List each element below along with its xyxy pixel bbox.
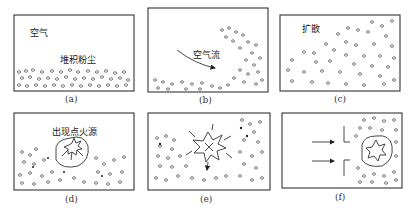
settled-dust-particles: [17, 69, 129, 88]
panel-a: 空气 堆积粉尘 (a): [14, 15, 134, 104]
ignition-rays: [62, 150, 83, 160]
label-settled-dust: 堆积粉尘: [60, 54, 96, 65]
panel-b: 空气流 (b): [148, 8, 268, 105]
panel-c: 扩散 (c): [280, 15, 400, 104]
label-airflow: 空气流: [193, 49, 220, 60]
panel-f: (f): [282, 113, 402, 202]
label-diffusion: 扩散: [302, 23, 320, 34]
panel-d-frame: [14, 113, 134, 190]
caption-b: (b): [199, 95, 212, 105]
dust-explosion-diagram: 空气 堆积粉尘 (a): [0, 0, 416, 218]
panel-e: (e): [148, 113, 270, 204]
panel-d: 出现点火源 (d): [14, 113, 134, 204]
secondary-flame-envelope: [362, 136, 392, 167]
suspended-dust-particles-e: [155, 119, 264, 182]
explosion-core: [205, 143, 213, 151]
label-air: 空气: [30, 27, 48, 38]
wall-opening-top: [344, 126, 350, 142]
wall-opening-bottom: [344, 160, 350, 176]
caption-c: (c): [334, 94, 346, 104]
label-ignition-source: 出现点火源: [52, 126, 97, 137]
caption-e: (e): [200, 194, 212, 204]
caption-f: (f): [335, 192, 345, 202]
panel-c-frame: [280, 15, 400, 91]
panel-f-frame: [282, 113, 402, 188]
panel-a-frame: [14, 15, 134, 91]
caption-a: (a): [65, 94, 77, 104]
secondary-explosion-star-icon: [366, 140, 386, 161]
caption-d: (d): [65, 194, 78, 204]
suspended-dust-particles-f: [355, 117, 398, 185]
